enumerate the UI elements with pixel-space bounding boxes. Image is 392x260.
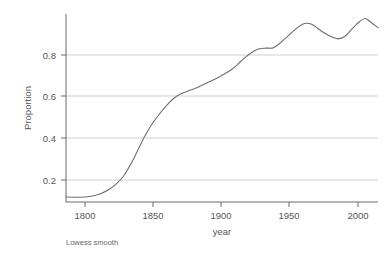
chart-caption: Lowess smooth — [66, 238, 118, 247]
x-tick-label-1900: 1900 — [210, 210, 231, 221]
x-axis-tick-labels-group: 1800 1850 1900 1950 2000 — [74, 210, 368, 221]
x-axis-ticks-group — [85, 202, 358, 207]
x-tick-label-1950: 1950 — [278, 210, 299, 221]
chart-figure: 0.8 0.6 0.4 0.2 1800 1850 1900 1950 2000… — [0, 0, 392, 260]
axis-lines-group — [66, 14, 378, 202]
y-axis-tick-labels-group: 0.8 0.6 0.4 0.2 — [43, 50, 56, 186]
y-tick-label-0.6: 0.6 — [43, 91, 56, 102]
x-tick-label-1850: 1850 — [142, 210, 163, 221]
line-chart-canvas: 0.8 0.6 0.4 0.2 1800 1850 1900 1950 2000… — [0, 0, 392, 260]
y-axis-ticks-group — [61, 55, 66, 180]
y-tick-label-0.2: 0.2 — [43, 175, 56, 186]
y-tick-label-0.4: 0.4 — [43, 133, 56, 144]
gridlines-group — [66, 55, 378, 180]
x-tick-label-2000: 2000 — [347, 210, 368, 221]
y-tick-label-0.8: 0.8 — [43, 50, 56, 61]
x-axis-title: year — [213, 226, 231, 237]
y-axis-title: Proportion — [22, 86, 33, 130]
x-tick-label-1800: 1800 — [74, 210, 95, 221]
lowess-smooth-line — [66, 19, 378, 198]
